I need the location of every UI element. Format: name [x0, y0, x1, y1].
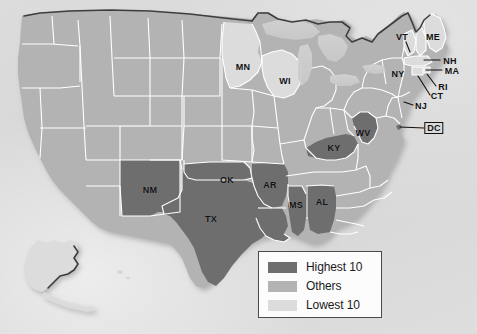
state-label-NJ: NJ: [415, 101, 427, 111]
state-label-TX: TX: [205, 214, 217, 224]
state-label-ME: ME: [426, 32, 440, 42]
map-legend: Highest 10 Others Lowest 10: [258, 251, 382, 318]
legend-swatch-others: [268, 281, 297, 292]
legend-swatch-highest: [268, 262, 297, 273]
legend-label-highest: Highest 10: [306, 261, 362, 273]
state-label-VT: VT: [396, 32, 408, 42]
hawaii-region: [117, 270, 130, 280]
state-CT: [412, 67, 423, 75]
legend-label-others: Others: [306, 280, 341, 292]
legend-item-others: Others: [268, 277, 381, 295]
state-label-MN: MN: [236, 62, 250, 72]
legend-label-lowest: Lowest 10: [306, 299, 360, 311]
state-label-CT: CT: [431, 91, 443, 101]
legend-item-lowest: Lowest 10: [268, 296, 381, 314]
alaska-aleutians: [42, 292, 96, 312]
us-map: [0, 0, 477, 334]
legend-item-highest: Highest 10: [268, 258, 381, 276]
leader-DC: [400, 127, 424, 128]
map-figure: MN WI VT ME NH NY MA RI CT NJ WV DC KY N…: [0, 0, 477, 334]
state-label-AL: AL: [316, 197, 328, 207]
state-label-NH: NH: [443, 56, 456, 66]
state-label-OK: OK: [220, 175, 234, 185]
state-label-MS: MS: [289, 200, 303, 210]
state-label-NM: NM: [143, 185, 157, 195]
state-label-WI: WI: [279, 76, 290, 86]
island-1: [117, 270, 123, 274]
island-2: [126, 276, 131, 279]
state-label-MA: MA: [445, 66, 459, 76]
leader-RI: [427, 74, 436, 86]
legend-swatch-lowest: [268, 300, 297, 311]
state-label-AR: AR: [263, 180, 276, 190]
state-OK: [184, 162, 252, 180]
state-label-KY: KY: [328, 143, 341, 153]
state-label-NY: NY: [392, 69, 405, 79]
state-label-WV: WV: [356, 128, 371, 138]
state-label-DC: DC: [424, 122, 443, 134]
